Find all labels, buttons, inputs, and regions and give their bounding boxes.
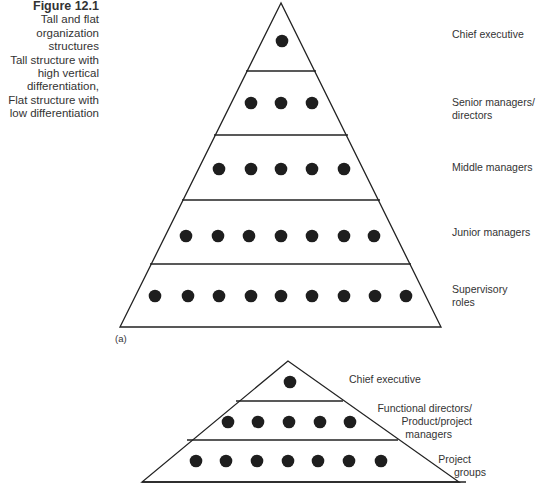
level-label-supervisory-roles: Supervisory roles <box>452 283 507 309</box>
label-line: directors <box>452 109 535 122</box>
level-label-junior-managers: Junior managers <box>452 226 530 239</box>
person-dot <box>400 290 413 303</box>
person-dot <box>282 455 295 468</box>
person-dot <box>245 97 258 110</box>
person-dot <box>375 455 388 468</box>
flat-level-label-project-groups: Project groups <box>430 453 486 479</box>
sublabel-a: (a) <box>115 333 127 344</box>
label-line: Functional directors/ <box>362 402 472 415</box>
person-dot <box>149 290 162 303</box>
label-line: Product/project <box>362 415 472 428</box>
flat-level-label-functional-directors: Functional directors/ Product/project ma… <box>362 402 472 441</box>
person-dot <box>338 290 351 303</box>
person-dot <box>275 163 288 176</box>
person-dot <box>276 35 289 48</box>
label-line: groups <box>430 466 486 479</box>
person-dot <box>284 376 297 389</box>
person-dot <box>213 290 226 303</box>
level-label-chief-executive: Chief executive <box>452 28 524 41</box>
person-dot <box>368 230 381 243</box>
person-dot <box>283 416 296 429</box>
person-dot <box>243 230 256 243</box>
label-line: managers <box>362 428 472 441</box>
person-dot <box>338 230 351 243</box>
person-dot <box>306 97 319 110</box>
label-line: Project <box>430 453 486 466</box>
person-dot <box>182 290 195 303</box>
label-line: roles <box>452 296 507 309</box>
person-dot <box>213 163 226 176</box>
person-dot <box>275 230 288 243</box>
person-dot <box>190 455 203 468</box>
person-dot <box>245 163 258 176</box>
person-dot <box>306 230 319 243</box>
person-dot <box>212 230 225 243</box>
person-dot <box>220 455 233 468</box>
person-dot <box>344 416 357 429</box>
person-dot <box>222 416 235 429</box>
person-dot <box>369 290 382 303</box>
label-line: Senior managers/ <box>452 96 535 109</box>
person-dot <box>245 290 258 303</box>
flat-pyramid-dots <box>190 376 388 468</box>
label-line: Supervisory <box>452 283 507 296</box>
person-dot <box>338 163 351 176</box>
flat-level-label-chief-executive: Chief executive <box>349 373 421 386</box>
person-dot <box>343 455 356 468</box>
level-label-senior-managers: Senior managers/ directors <box>452 96 535 122</box>
person-dot <box>306 163 319 176</box>
person-dot <box>252 416 265 429</box>
person-dot <box>306 290 319 303</box>
tall-pyramid-dots <box>149 35 413 303</box>
person-dot <box>314 416 327 429</box>
person-dot <box>312 455 325 468</box>
person-dot <box>251 455 264 468</box>
person-dot <box>275 97 288 110</box>
person-dot <box>180 230 193 243</box>
level-label-middle-managers: Middle managers <box>452 161 533 174</box>
person-dot <box>275 290 288 303</box>
